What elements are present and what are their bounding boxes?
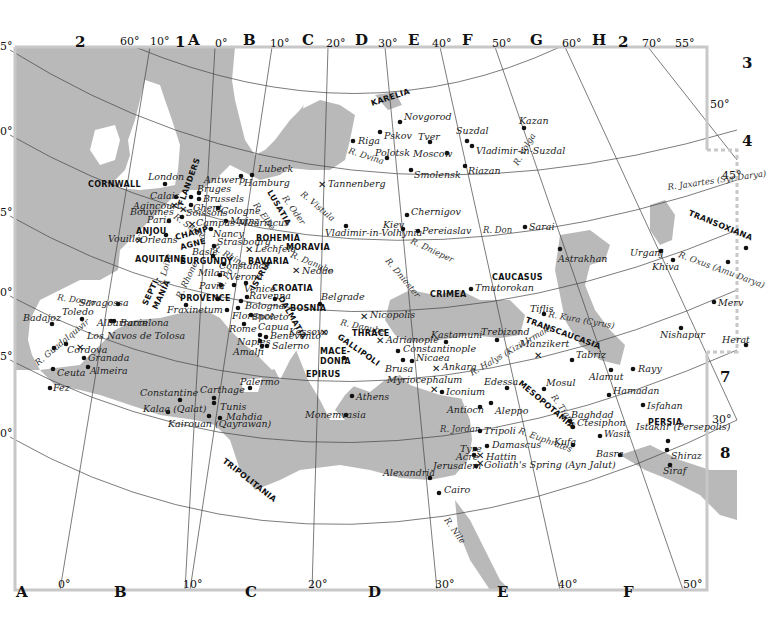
city-label: Pavia xyxy=(198,280,225,291)
city-dot-icon xyxy=(189,195,194,200)
city: Kufa xyxy=(553,436,577,447)
city-dot-icon xyxy=(631,367,636,372)
degree-label: 0° xyxy=(215,37,228,50)
city xyxy=(744,246,749,251)
crossed-swords-icon: ✕ xyxy=(376,335,384,346)
city-label: Kairouan (Qayrawan) xyxy=(167,418,272,429)
city: Granada xyxy=(82,352,130,363)
grid-reference-label: C xyxy=(245,583,257,601)
city-label: Kiev xyxy=(382,219,405,230)
city-label: Albarracin xyxy=(96,317,148,328)
city: Jerusalem xyxy=(431,460,481,471)
city-label: Tiflis xyxy=(530,303,554,314)
grid-reference-label: 7 xyxy=(720,368,730,386)
city-label: Basle xyxy=(191,246,219,257)
battle-label: Adrianople xyxy=(385,334,439,345)
city: Amalfi xyxy=(232,344,264,357)
battle-label: Bouvines xyxy=(129,206,174,217)
city-label: Nishapur xyxy=(659,329,706,340)
crossed-swords-icon: ✕ xyxy=(534,350,542,361)
city-dot-icon xyxy=(444,340,449,345)
degree-label: 0° xyxy=(0,125,13,138)
city-label: Hamadan xyxy=(612,385,659,396)
crossed-swords-icon: ✕ xyxy=(360,311,368,322)
city-label: Khiva xyxy=(651,261,680,272)
city-label: Vladimir-in-Suzdal xyxy=(476,145,565,156)
city-label: Edessa xyxy=(483,376,518,387)
city-label: Brusa xyxy=(384,363,414,374)
city-dot-icon xyxy=(318,302,323,307)
grid-reference-label: 1 xyxy=(175,33,185,51)
grid-reference-label: 3 xyxy=(742,54,752,72)
medieval-europe-map: 260°10°1A0°B10°C20°D30°E40°F50°G60°H270°… xyxy=(0,0,779,636)
city: Tripoli xyxy=(478,425,516,436)
city-dot-icon xyxy=(232,283,237,288)
city-label: Shiraz xyxy=(671,450,703,461)
city: Smolensk xyxy=(409,168,461,180)
crossed-swords-icon: ✕ xyxy=(76,342,84,353)
city-label: Isfahan xyxy=(646,400,683,411)
city: Salerno xyxy=(265,340,310,351)
city-dot-icon xyxy=(351,139,356,144)
city-label: Belgrade xyxy=(320,291,365,302)
city-label: Istakhr (Persepolis) xyxy=(635,421,731,432)
city-label: Jerusalem xyxy=(431,460,481,471)
city-dot-icon xyxy=(712,300,717,305)
city: Almeira xyxy=(86,365,128,376)
region-label: EPIRUS xyxy=(306,370,341,379)
city-dot-icon xyxy=(378,130,383,135)
city-label: Herat xyxy=(721,334,750,345)
city-label: Athens xyxy=(355,391,389,402)
city: Damascus xyxy=(485,439,542,450)
city-dot-icon xyxy=(571,425,576,430)
city-dot-icon xyxy=(744,246,749,251)
city-label: Riazan xyxy=(467,165,501,176)
city-label: Aleppo xyxy=(494,405,529,416)
city-label: Sarai xyxy=(529,221,554,232)
city-label: Carthage xyxy=(200,384,245,395)
city-label: Chernigov xyxy=(411,206,462,217)
degree-label: 0° xyxy=(0,427,13,440)
degree-label: 10° xyxy=(183,578,203,591)
city xyxy=(52,346,57,351)
city-label: Fraxinetum xyxy=(166,304,223,315)
grid-reference-label: D xyxy=(368,583,381,601)
river-label: R. Jordan xyxy=(439,424,480,434)
city-dot-icon xyxy=(607,393,612,398)
city-dot-icon xyxy=(495,338,500,343)
city-dot-icon xyxy=(180,215,185,220)
city-dot-icon xyxy=(469,287,474,292)
battle-site: ✕Nedao xyxy=(292,265,334,276)
grid-reference-label: F xyxy=(623,583,634,601)
grid-reference-label: D xyxy=(355,31,368,49)
crossed-swords-icon: ✕ xyxy=(432,363,440,374)
city-label: Polotsk xyxy=(374,147,410,158)
city-dot-icon xyxy=(416,229,421,234)
city-label: Damascus xyxy=(491,439,541,450)
city: Urganj xyxy=(630,247,663,258)
region-label: CORNWALL xyxy=(88,180,141,189)
city: Shiraz xyxy=(665,448,703,461)
city-label: Milan xyxy=(197,267,226,278)
city: Constance xyxy=(219,260,270,271)
city: Hamadan xyxy=(607,385,660,397)
grid-reference-label: H xyxy=(592,31,606,49)
battle-site: ✕Goliath's Spring (Ayn Jalut) xyxy=(476,458,616,470)
city-label: Ctesiphon xyxy=(577,417,626,428)
city-label: Riga xyxy=(357,135,380,146)
city: Fraxinetum xyxy=(166,303,223,315)
city-label: Tmutorokan xyxy=(475,282,534,293)
city-dot-icon xyxy=(666,439,671,444)
degree-label: 40° xyxy=(432,37,452,50)
city-dot-icon xyxy=(570,358,575,363)
city: Isfahan xyxy=(641,400,683,411)
city-dot-icon xyxy=(80,317,85,322)
city-label: Rome xyxy=(228,323,257,334)
degree-label: 10° xyxy=(150,35,170,48)
city-label: Verona xyxy=(229,271,263,282)
city: Athens xyxy=(350,391,390,402)
city-label: Suzdal xyxy=(456,125,488,136)
crossed-swords-icon: ✕ xyxy=(430,384,438,395)
degree-label: 20° xyxy=(308,578,328,591)
city-dot-icon xyxy=(440,390,445,395)
